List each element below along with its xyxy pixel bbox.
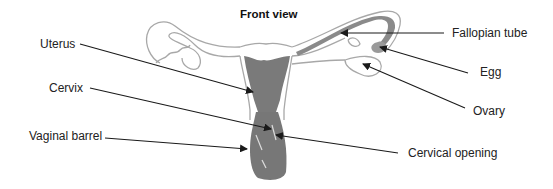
- arrow-egg: [380, 47, 468, 73]
- egg-shape: [371, 42, 386, 53]
- label-ovary: Ovary: [473, 104, 505, 118]
- diagram-title: Front view: [240, 8, 298, 20]
- label-cervical-opening: Cervical opening: [408, 146, 497, 160]
- arrow-uterus: [80, 44, 253, 92]
- arrow-vaginal-barrel: [105, 138, 247, 149]
- label-cervix: Cervix: [49, 81, 83, 95]
- label-fallopian-tube: Fallopian tube: [452, 26, 527, 40]
- arrow-cervical-opening: [276, 135, 398, 153]
- label-egg: Egg: [480, 65, 501, 79]
- arrow-cervix: [90, 88, 271, 129]
- label-uterus: Uterus: [40, 37, 75, 51]
- arrow-ovary: [363, 64, 465, 108]
- vaginal-barrel: [250, 112, 287, 180]
- uterus-cavity: [244, 56, 290, 112]
- label-vaginal-barrel: Vaginal barrel: [29, 129, 102, 143]
